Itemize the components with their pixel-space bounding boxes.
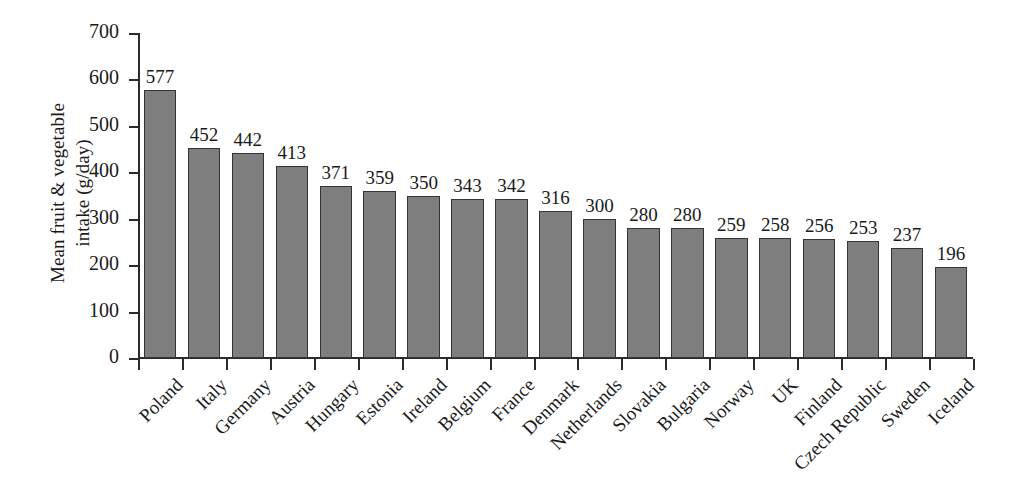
x-axis-tick-mark: [138, 359, 140, 370]
bar-value-label: 280: [621, 204, 665, 226]
y-axis-tick-mark: [129, 172, 138, 174]
x-axis-tick-mark: [226, 359, 228, 370]
bar: [583, 219, 616, 358]
x-axis-tick-mark: [270, 359, 272, 370]
bar: [363, 191, 396, 358]
x-axis-tick-mark: [358, 359, 360, 370]
bar-value-label: 343: [446, 175, 490, 197]
y-axis-tick-mark: [129, 265, 138, 267]
x-axis-tick-mark: [753, 359, 755, 370]
y-axis-tick-label: 500: [89, 113, 119, 136]
x-axis-category-label: Poland: [135, 374, 188, 427]
x-axis-tick-mark: [182, 359, 184, 370]
bar: [407, 196, 440, 359]
x-axis-category-label: Norway: [700, 374, 759, 433]
bar-value-label: 350: [402, 172, 446, 194]
bar-value-label: 253: [841, 217, 885, 239]
x-axis-category-label: Sweden: [877, 374, 935, 432]
x-axis-tick-mark: [797, 359, 799, 370]
y-axis-tick-mark: [129, 219, 138, 221]
x-axis-tick-mark: [885, 359, 887, 370]
x-axis-tick-mark: [709, 359, 711, 370]
y-axis-tick-label: 100: [89, 299, 119, 322]
bar-value-label: 442: [226, 129, 270, 151]
bar-value-label: 280: [665, 204, 709, 226]
bar: [144, 90, 177, 358]
bar-value-label: 300: [577, 195, 621, 217]
bar-value-label: 259: [709, 214, 753, 236]
bar-value-label: 256: [797, 215, 841, 237]
x-axis-category-label: Iceland: [923, 374, 978, 429]
x-axis-category-label: Estonia: [351, 374, 407, 430]
bar-value-label: 359: [358, 167, 402, 189]
y-axis-tick-label: 200: [89, 252, 119, 275]
y-axis-tick-mark: [129, 126, 138, 128]
x-axis-tick-mark: [402, 359, 404, 370]
y-axis-tick-mark: [129, 33, 138, 35]
bar: [935, 267, 968, 358]
x-axis-tick-mark: [314, 359, 316, 370]
bar-value-label: 577: [138, 66, 182, 88]
bar-value-label: 342: [490, 175, 534, 197]
y-axis-tick-mark: [129, 358, 138, 360]
x-axis-tick-mark: [621, 359, 623, 370]
x-axis-tick-mark: [841, 359, 843, 370]
x-axis-tick-mark: [973, 359, 975, 370]
bar: [539, 211, 572, 358]
bar: [495, 199, 528, 358]
bar: [451, 199, 484, 358]
y-axis-tick-label: 600: [89, 66, 119, 89]
bar-value-label: 237: [885, 224, 929, 246]
bar-value-label: 196: [929, 243, 973, 265]
bar-value-label: 452: [182, 124, 226, 146]
y-axis-title-line-1: Mean fruit & vegetable: [47, 103, 68, 283]
bar: [759, 238, 792, 358]
y-axis-tick-mark: [129, 312, 138, 314]
bar-value-label: 371: [314, 162, 358, 184]
x-axis-tick-mark: [490, 359, 492, 370]
bar: [627, 228, 660, 358]
y-axis-tick-label: 400: [89, 159, 119, 182]
bar-value-label: 316: [534, 187, 578, 209]
x-axis-tick-mark: [534, 359, 536, 370]
x-axis-tick-mark: [929, 359, 931, 370]
bar: [715, 238, 748, 358]
bar: [847, 241, 880, 358]
bar: [232, 153, 265, 358]
x-axis-tick-mark: [446, 359, 448, 370]
x-axis-tick-mark: [665, 359, 667, 370]
bar: [671, 228, 704, 358]
x-axis-category-label: UK: [768, 374, 803, 409]
y-axis-tick-label: 300: [89, 206, 119, 229]
bar: [188, 148, 221, 358]
bar: [803, 239, 836, 358]
scan-bleed-artifact: [180, 14, 184, 34]
y-axis-tick-mark: [129, 79, 138, 81]
x-axis-tick-mark: [577, 359, 579, 370]
y-axis-tick-label: 0: [109, 345, 119, 368]
bar-value-label: 258: [753, 214, 797, 236]
bar: [320, 186, 353, 358]
bar-chart-figure: Mean fruit & vegetable intake (g/day) 01…: [0, 0, 1011, 502]
bar: [276, 166, 309, 358]
bar: [891, 248, 924, 358]
y-axis-tick-label: 700: [89, 20, 119, 43]
bar-value-label: 413: [270, 142, 314, 164]
